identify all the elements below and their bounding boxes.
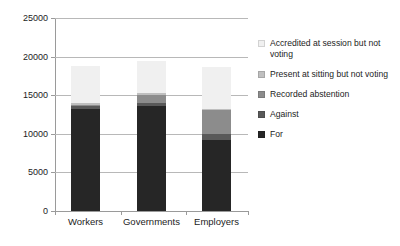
bar-segment [71, 66, 100, 103]
x-tick-mark-2 [186, 211, 187, 215]
y-tick-mark-5000 [51, 172, 55, 173]
gridline-20000 [55, 57, 248, 58]
legend-item-label: Accredited at session but not voting [270, 38, 398, 60]
chart-legend: Accredited at session but not votingPres… [258, 38, 398, 149]
y-tick-mark-20000 [51, 57, 55, 58]
bar-employers [202, 67, 231, 211]
plot-area [55, 18, 248, 211]
bar-segment [137, 61, 166, 93]
y-axis-tick-label: 5000 [2, 168, 48, 177]
y-tick-mark-15000 [51, 95, 55, 96]
legend-swatch-icon [258, 131, 265, 138]
legend-item[interactable]: Against [258, 109, 398, 120]
y-axis-tick-label: 25000 [2, 14, 48, 23]
x-tick-mark-0 [55, 211, 56, 215]
y-axis-tick-label: 20000 [2, 53, 48, 62]
legend-swatch-icon [258, 111, 265, 118]
x-tick-mark-1 [121, 211, 122, 215]
legend-item[interactable]: Recorded abstention [258, 89, 398, 100]
legend-item-label: Against [270, 109, 299, 120]
stacked-bar-chart: 0500010000150002000025000 WorkersGovernm… [0, 0, 400, 246]
legend-swatch-icon [258, 40, 265, 47]
bar-segment [71, 109, 100, 211]
y-axis-tick-label: 10000 [2, 130, 48, 139]
legend-item[interactable]: Present at sitting but not voting [258, 69, 398, 80]
legend-item-label: Present at sitting but not voting [270, 69, 388, 80]
gridline-25000 [55, 18, 248, 19]
legend-item[interactable]: Accredited at session but not voting [258, 38, 398, 60]
y-tick-mark-25000 [51, 18, 55, 19]
bar-governments [137, 61, 166, 211]
y-axis-tick-label: 15000 [2, 91, 48, 100]
y-tick-mark-10000 [51, 134, 55, 135]
bar-segment [202, 67, 231, 108]
bar-segment [137, 95, 166, 103]
bar-segment [137, 106, 166, 211]
y-axis-tick-label: 0 [2, 207, 48, 216]
legend-swatch-icon [258, 71, 265, 78]
x-axis-tick-label: Employers [167, 216, 267, 228]
gridline-0 [55, 211, 248, 212]
legend-item-label: Recorded abstention [270, 89, 349, 100]
legend-item[interactable]: For [258, 129, 398, 140]
bar-segment [202, 110, 231, 134]
bar-workers [71, 66, 100, 211]
x-tick-mark-3 [248, 211, 249, 215]
legend-item-label: For [270, 129, 283, 140]
bar-segment [202, 140, 231, 211]
legend-swatch-icon [258, 91, 265, 98]
